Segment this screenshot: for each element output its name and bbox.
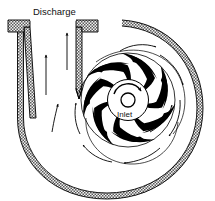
inlet-label: Inlet	[117, 110, 133, 119]
discharge-label: Discharge	[33, 6, 76, 17]
flow-arrow-up-lower	[52, 104, 58, 132]
streamline-arrow	[75, 103, 80, 134]
discharge-flow-arrows	[46, 33, 67, 132]
streamline-arrow	[83, 145, 112, 162]
pump-diagram: Discharge Inlet	[0, 0, 215, 201]
centrifugal-pump-illustration: Discharge Inlet	[0, 0, 215, 201]
streamline-arrow	[124, 148, 160, 163]
inlet-eye	[121, 93, 135, 107]
